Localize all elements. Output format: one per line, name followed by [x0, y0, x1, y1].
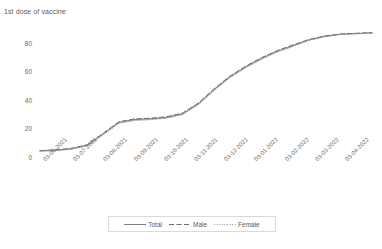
chart-title: 1st dose of vaccine [4, 8, 66, 15]
legend-item-male[interactable]: Male [169, 221, 207, 228]
dashed-line-icon [169, 221, 191, 228]
x-axis: 03-06-202103-07-202103-08-202103-09-2021… [40, 158, 372, 206]
y-axis-tick-label: 0 [28, 155, 32, 162]
solid-line-icon [124, 221, 146, 228]
series-line-male [40, 33, 372, 151]
legend-item-total[interactable]: Total [124, 221, 162, 228]
legend-item-female[interactable]: Female [214, 221, 260, 228]
y-axis-tick-label: 60 [25, 69, 32, 76]
chart-container: 1st dose of vaccine 020406080 03-06-2021… [0, 0, 382, 249]
y-axis-tick-label: 20 [25, 126, 32, 133]
legend-label: Male [193, 221, 207, 228]
chart-legend: TotalMaleFemale [108, 216, 276, 232]
series-line-total [40, 33, 372, 151]
y-axis-tick-label: 40 [25, 98, 32, 105]
y-axis-tick-label: 80 [25, 41, 32, 48]
legend-label: Female [238, 221, 260, 228]
dotted-line-icon [214, 221, 236, 228]
legend-label: Total [148, 221, 162, 228]
y-axis: 020406080 [0, 30, 38, 158]
series-line-female [40, 33, 372, 151]
